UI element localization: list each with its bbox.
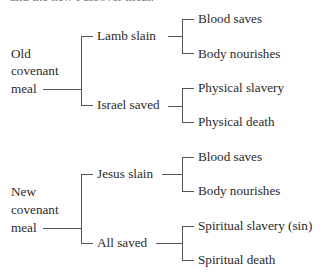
new-b2-stub xyxy=(156,243,182,244)
old-bracket xyxy=(81,36,82,106)
old-b2-bracket xyxy=(182,88,183,123)
new-b2-leaf2-line xyxy=(182,260,194,261)
new-root-line2: covenant xyxy=(11,201,59,218)
old-leaf-physical-death: Physical death xyxy=(198,113,275,130)
new-root-connector xyxy=(43,228,81,229)
old-branch-israel-saved: Israel saved xyxy=(97,96,160,113)
old-branch1-connector xyxy=(81,36,93,37)
old-root-line1: Old xyxy=(11,45,31,62)
new-leaf-body-nourishes: Body nourishes xyxy=(198,182,280,199)
old-root-line2: covenant xyxy=(11,62,59,79)
old-b2-leaf1-line xyxy=(182,88,194,89)
new-b1-leaf1-line xyxy=(182,157,194,158)
old-b1-bracket xyxy=(182,19,183,54)
old-b2-stub xyxy=(168,106,182,107)
old-root-connector xyxy=(43,89,81,90)
old-root-line3: meal xyxy=(11,80,37,97)
new-branch1-connector xyxy=(81,174,93,175)
new-leaf-blood-saves: Blood saves xyxy=(198,148,262,165)
old-leaf-body-nourishes: Body nourishes xyxy=(198,45,280,62)
new-root-line1: New xyxy=(11,183,36,200)
old-branch2-connector xyxy=(81,105,93,106)
cut-off-header-text: and the new Passover meal. xyxy=(10,0,154,5)
old-b1-leaf1-line xyxy=(182,19,194,20)
new-root-line3: meal xyxy=(11,219,37,236)
new-branch2-connector xyxy=(81,243,93,244)
new-bracket xyxy=(81,174,82,244)
old-branch-lamb-slain: Lamb slain xyxy=(97,27,156,44)
new-b2-bracket xyxy=(182,226,183,261)
new-b1-bracket xyxy=(182,157,183,192)
old-b2-leaf2-line xyxy=(182,122,194,123)
old-b1-stub xyxy=(168,36,182,37)
new-leaf-spiritual-death: Spiritual death xyxy=(198,251,275,268)
old-leaf-blood-saves: Blood saves xyxy=(198,10,262,27)
new-branch-jesus-slain: Jesus slain xyxy=(97,165,153,182)
new-b2-leaf1-line xyxy=(182,226,194,227)
new-branch-all-saved: All saved xyxy=(97,234,147,251)
new-leaf-spiritual-slavery: Spiritual slavery (sin) xyxy=(198,217,312,234)
new-b1-leaf2-line xyxy=(182,191,194,192)
old-leaf-physical-slavery: Physical slavery xyxy=(198,79,284,96)
old-b1-leaf2-line xyxy=(182,53,194,54)
new-b1-stub xyxy=(162,174,182,175)
